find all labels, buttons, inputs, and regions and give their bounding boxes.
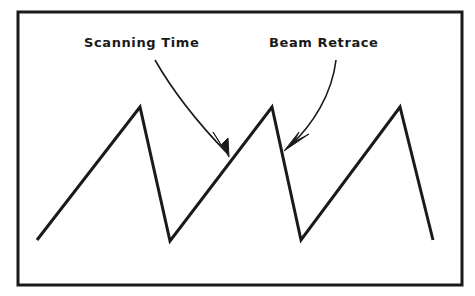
waveform-canvas xyxy=(0,0,475,296)
waveform-figure: Scanning Time Beam Retrace xyxy=(0,0,475,296)
scanning-time-label: Scanning Time xyxy=(84,36,199,49)
beam-retrace-label: Beam Retrace xyxy=(269,36,379,49)
